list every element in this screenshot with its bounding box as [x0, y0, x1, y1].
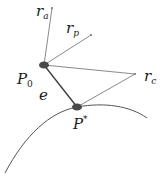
vector-r-p — [44, 35, 91, 65]
label-r-p: rp — [66, 19, 79, 38]
label-pstar: P* — [72, 114, 88, 133]
vector-pstar-r-c — [77, 74, 135, 107]
vector-r-a-tip — [51, 7, 53, 9]
node-pstar — [72, 103, 82, 110]
label-p0: P0 — [16, 70, 33, 89]
node-p0 — [39, 61, 49, 68]
vector-r-c — [44, 65, 135, 74]
label-r-a: ra — [36, 2, 49, 21]
edge-e — [44, 65, 77, 107]
label-r-c: rc — [144, 67, 156, 86]
vector-r-p-tip — [90, 34, 92, 36]
label-e: e — [39, 86, 48, 104]
diagram-canvas: ra rp rc P0 e P* — [0, 0, 163, 181]
vector-r-c-tip — [134, 73, 136, 75]
